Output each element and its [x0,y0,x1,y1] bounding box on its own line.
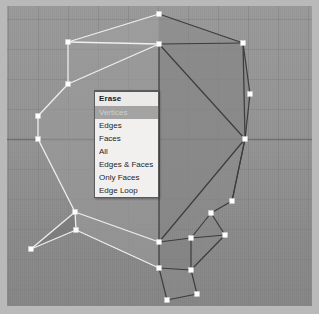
menu-item-all[interactable]: All [95,145,158,158]
application-window: Erase Vertices Edges Faces All Edges & F… [0,0,319,314]
menu-item-edges-and-faces[interactable]: Edges & Faces [95,158,158,171]
erase-context-menu[interactable]: Erase Vertices Edges Faces All Edges & F… [94,90,159,198]
context-menu-title: Erase [95,92,158,106]
mesh-wireframe[interactable] [7,6,312,306]
menu-item-vertices[interactable]: Vertices [95,106,158,119]
menu-item-faces[interactable]: Faces [95,132,158,145]
menu-item-edge-loop[interactable]: Edge Loop [95,184,158,197]
3d-viewport[interactable]: Erase Vertices Edges Faces All Edges & F… [7,6,312,306]
menu-item-only-faces[interactable]: Only Faces [95,171,158,184]
menu-item-edges[interactable]: Edges [95,119,158,132]
